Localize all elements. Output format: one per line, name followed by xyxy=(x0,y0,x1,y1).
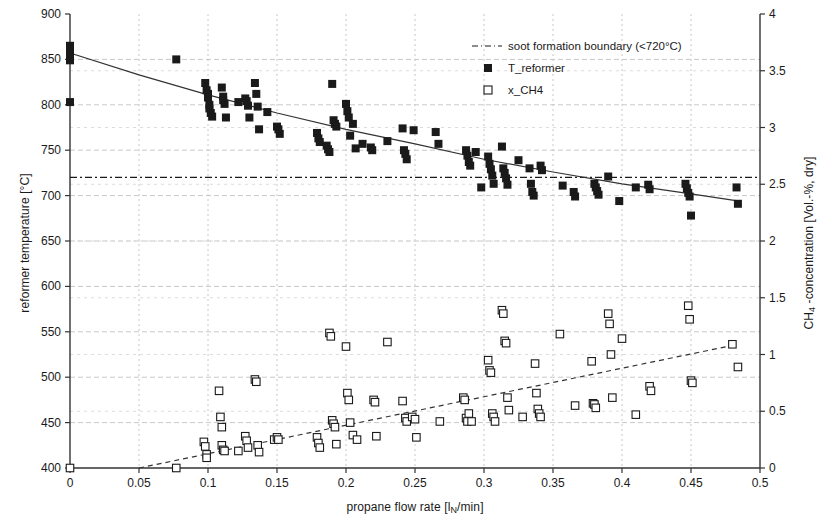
data-point-t-reformer xyxy=(254,103,262,111)
data-point-t-reformer xyxy=(595,191,603,199)
data-point-x-ch4 xyxy=(571,402,579,410)
data-point-x-ch4 xyxy=(384,338,392,346)
data-point-t-reformer xyxy=(604,173,612,181)
grid-layer xyxy=(70,14,760,468)
data-point-x-ch4 xyxy=(327,333,335,341)
data-point-x-ch4 xyxy=(491,418,499,426)
data-point-t-reformer xyxy=(538,166,546,174)
data-point-x-ch4 xyxy=(333,440,341,448)
data-point-t-reformer xyxy=(201,79,209,87)
data-point-t-reformer xyxy=(527,180,535,188)
y-tick-label-left: 850 xyxy=(41,52,61,66)
data-point-t-reformer xyxy=(245,114,253,122)
data-point-x-ch4 xyxy=(500,310,508,318)
x-tick-label: 0.15 xyxy=(265,476,289,490)
data-point-x-ch4 xyxy=(413,434,421,442)
x-tick-label: 0.25 xyxy=(403,476,427,490)
data-point-t-reformer xyxy=(222,114,230,122)
x-tick-label: 0.5 xyxy=(752,476,769,490)
y-tick-label-left: 400 xyxy=(41,461,61,475)
x-tick-label: 0.2 xyxy=(338,476,355,490)
data-point-t-reformer xyxy=(251,79,259,87)
data-point-x-ch4 xyxy=(468,418,476,426)
data-point-t-reformer xyxy=(325,148,333,156)
data-point-x-ch4 xyxy=(689,379,697,387)
data-point-x-ch4 xyxy=(275,436,283,444)
data-point-t-reformer xyxy=(346,132,354,140)
data-point-t-reformer xyxy=(484,153,492,161)
data-point-t-reformer xyxy=(244,102,252,110)
data-point-x-ch4 xyxy=(505,406,512,414)
data-point-x-ch4 xyxy=(253,378,260,386)
data-point-t-reformer xyxy=(615,197,623,205)
data-point-t-reformer xyxy=(234,98,242,106)
data-point-t-reformer xyxy=(352,144,360,152)
data-point-t-reformer xyxy=(332,123,340,131)
data-point-t-reformer xyxy=(472,148,480,156)
data-point-x-ch4 xyxy=(244,444,252,452)
data-point-x-ch4 xyxy=(66,464,74,472)
y-tick-label-left: 600 xyxy=(41,279,61,293)
y-tick-label-left: 800 xyxy=(41,98,61,112)
data-point-x-ch4 xyxy=(465,410,473,418)
chart-figure: reformer temperature [°C] CH4 -concentra… xyxy=(0,0,819,527)
data-point-x-ch4 xyxy=(373,432,381,440)
data-point-x-ch4 xyxy=(255,448,263,456)
data-point-x-ch4 xyxy=(533,389,541,397)
legend-label: soot formation boundary (<720°C) xyxy=(508,40,682,52)
y-tick-label-right: 0.5 xyxy=(769,404,786,418)
data-point-t-reformer xyxy=(403,155,411,163)
data-point-t-reformer xyxy=(368,146,376,154)
y-tick-label-right: 2.5 xyxy=(769,177,786,191)
data-point-x-ch4 xyxy=(606,320,614,328)
data-point-t-reformer xyxy=(208,113,216,121)
y-tick-label-left: 750 xyxy=(41,143,61,157)
data-point-t-reformer xyxy=(349,120,357,128)
y-tick-label-right: 4 xyxy=(769,7,776,21)
data-point-x-ch4 xyxy=(218,423,226,431)
data-point-t-reformer xyxy=(316,138,324,146)
y-tick-label-left: 650 xyxy=(41,234,61,248)
data-point-t-reformer xyxy=(255,125,263,133)
data-point-t-reformer xyxy=(559,182,567,190)
data-point-x-ch4 xyxy=(684,302,692,310)
data-point-t-reformer xyxy=(383,137,391,145)
data-point-x-ch4 xyxy=(502,339,510,347)
data-point-x-ch4 xyxy=(484,356,492,364)
data-point-x-ch4 xyxy=(647,387,655,395)
data-point-x-ch4 xyxy=(734,363,742,371)
data-point-x-ch4 xyxy=(556,330,564,338)
legend-marker-x-ch4 xyxy=(484,86,492,94)
data-point-t-reformer xyxy=(734,200,742,208)
y-tick-label-left: 550 xyxy=(41,325,61,339)
y-tick-label-left: 450 xyxy=(41,416,61,430)
data-point-x-ch4 xyxy=(342,343,350,351)
data-point-t-reformer xyxy=(571,193,579,201)
data-point-x-ch4 xyxy=(217,413,225,421)
legend-label: x_CH4 xyxy=(508,84,544,96)
x-tick-label: 0 xyxy=(67,476,74,490)
data-point-x-ch4 xyxy=(436,418,444,426)
data-point-x-ch4 xyxy=(588,358,596,366)
data-point-t-reformer xyxy=(530,192,538,200)
data-point-x-ch4 xyxy=(609,394,617,402)
legend-label: T_reformer xyxy=(508,62,565,74)
data-point-t-reformer xyxy=(276,130,284,138)
data-point-t-reformer xyxy=(172,55,180,63)
data-point-x-ch4 xyxy=(221,447,229,455)
x-tick-label: 0.45 xyxy=(679,476,703,490)
data-point-t-reformer xyxy=(66,98,74,106)
data-point-x-ch4 xyxy=(235,447,243,455)
data-point-x-ch4 xyxy=(504,394,512,402)
data-point-x-ch4 xyxy=(592,404,600,412)
data-point-t-reformer xyxy=(410,126,418,134)
data-point-x-ch4 xyxy=(345,396,353,404)
y-tick-label-left: 900 xyxy=(41,7,61,21)
data-point-t-reformer xyxy=(204,94,212,102)
data-point-x-ch4 xyxy=(729,341,737,349)
y-tick-label-right: 2 xyxy=(769,234,776,248)
data-point-t-reformer xyxy=(434,140,442,148)
data-point-t-reformer xyxy=(399,124,407,132)
plot-svg: 00.050.10.150.20.250.30.350.40.450.54004… xyxy=(0,0,819,527)
data-point-t-reformer xyxy=(733,183,741,191)
